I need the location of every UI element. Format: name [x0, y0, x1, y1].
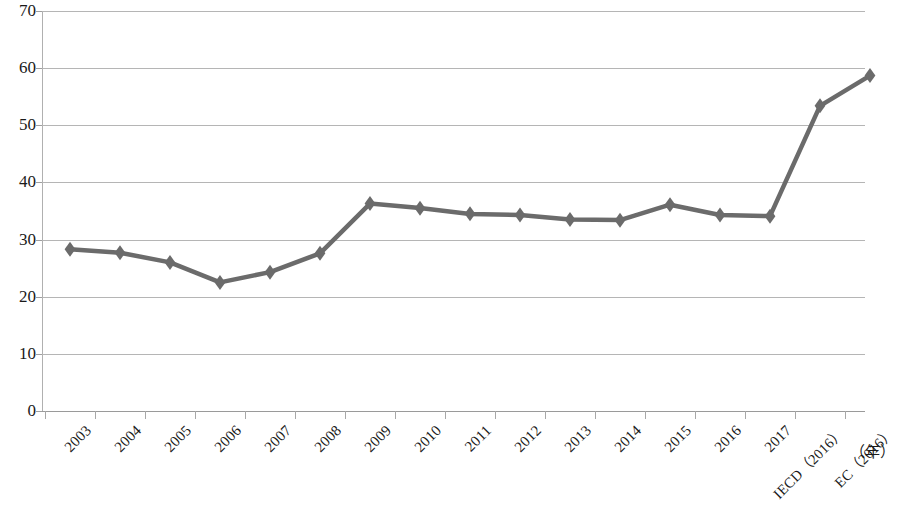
x-tick-10 — [545, 411, 546, 419]
x-axis-label-2015: 2015 — [661, 422, 695, 456]
x-axis-label-2012: 2012 — [511, 422, 545, 456]
x-axis-label-2017: 2017 — [761, 422, 795, 456]
x-axis-label-2009: 2009 — [361, 422, 395, 456]
x-tick-1 — [95, 411, 96, 419]
x-tick-6 — [345, 411, 346, 419]
x-axis-label-2003: 2003 — [61, 422, 95, 456]
y-axis-label-0: 0 — [0, 402, 36, 419]
x-tick-7 — [395, 411, 396, 419]
gridline-50 — [42, 125, 865, 126]
x-axis-label-2013: 2013 — [561, 422, 595, 456]
gridline-10 — [42, 354, 865, 355]
x-axis-unit-label: （年） — [850, 440, 895, 461]
x-tick-9 — [495, 411, 496, 419]
gridline-40 — [42, 182, 865, 183]
y-axis-label-60: 60 — [0, 59, 36, 76]
gridline-20 — [42, 297, 865, 298]
gridline-30 — [42, 240, 865, 241]
x-axis-label-2004: 2004 — [111, 422, 145, 456]
x-axis-label-2005: 2005 — [161, 422, 195, 456]
y-axis-label-40: 40 — [0, 173, 36, 190]
x-tick-14 — [745, 411, 746, 419]
x-tick-2 — [145, 411, 146, 419]
x-tick-15 — [795, 411, 796, 419]
y-axis-label-70: 70 — [0, 2, 36, 19]
y-axis-label-20: 20 — [0, 288, 36, 305]
x-axis-label-2010: 2010 — [411, 422, 445, 456]
x-tick-12 — [645, 411, 646, 419]
x-tick-0 — [45, 411, 46, 419]
plot-area — [42, 11, 865, 411]
gridline-60 — [42, 68, 865, 69]
gridline-70 — [42, 11, 865, 12]
y-axis-tick-labels: 70 60 50 40 30 20 10 0 — [0, 0, 36, 521]
x-axis-label-2006: 2006 — [211, 422, 245, 456]
x-axis-label-2011: 2011 — [462, 422, 495, 455]
x-axis-label-2008: 2008 — [311, 422, 345, 456]
x-tick-16 — [845, 411, 846, 419]
x-tick-8 — [445, 411, 446, 419]
y-axis-label-50: 50 — [0, 116, 36, 133]
data-point-marker — [865, 68, 876, 83]
x-tick-11 — [595, 411, 596, 419]
x-tick-5 — [295, 411, 296, 419]
x-axis-label-2016: 2016 — [711, 422, 745, 456]
line-chart: 70 60 50 40 30 20 10 0 20032004200520062… — [0, 0, 904, 521]
y-axis-label-10: 10 — [0, 345, 36, 362]
x-tick-13 — [695, 411, 696, 419]
gridline-0 — [42, 411, 865, 412]
x-tick-4 — [245, 411, 246, 419]
y-axis-label-30: 30 — [0, 231, 36, 248]
x-axis-label-2007: 2007 — [261, 422, 295, 456]
x-tick-3 — [195, 411, 196, 419]
x-axis-label-2014: 2014 — [611, 422, 645, 456]
